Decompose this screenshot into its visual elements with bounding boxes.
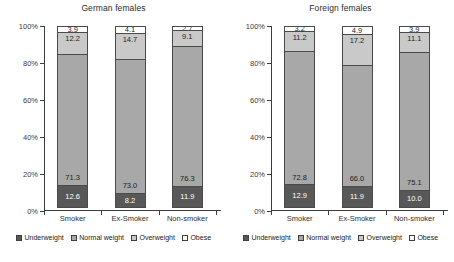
legend-swatch-icon xyxy=(131,235,137,241)
bar-segment: 12.6 xyxy=(57,185,88,208)
legend-swatch-icon xyxy=(243,235,249,241)
y-axis-tick-label: 80% xyxy=(231,59,265,68)
legend-item: Overweight xyxy=(131,234,175,241)
x-axis-labels: SmokerEx-SmokerNon-smoker xyxy=(271,214,448,228)
bar-segment: 17.2 xyxy=(342,34,373,66)
legend-item: Obese xyxy=(182,234,211,241)
bar-segment-value: 17.2 xyxy=(343,37,372,45)
chart-title: German females xyxy=(0,3,227,13)
y-axis-tick-label: 60% xyxy=(231,96,265,105)
y-axis-tick-label: 0% xyxy=(231,207,265,216)
legend-item: Underweight xyxy=(16,234,64,241)
legend-item: Normal weight xyxy=(71,234,124,241)
bar-segment-value: 66.0 xyxy=(343,175,372,183)
legend-label: Underweight xyxy=(24,234,63,241)
x-axis-category-label: Smoker xyxy=(287,214,313,223)
legend-item: Obese xyxy=(409,234,438,241)
legend: UnderweightNormal weightOverweightObese xyxy=(0,234,227,241)
bar-segment-value: 72.8 xyxy=(285,174,314,182)
bar-segment: 10.0 xyxy=(399,190,430,209)
stacked-bar: 3.911.175.110.0 xyxy=(399,26,430,211)
legend-label: Overweight xyxy=(140,234,175,241)
x-axis-category-label: Ex-Smoker xyxy=(111,214,148,223)
stacked-bar: 2.79.176.311.9 xyxy=(172,26,203,211)
stacked-bar-chart-figure: German females 0%20%40%60%80%100% 3.912.… xyxy=(0,0,454,262)
bar-segment-value: 75.1 xyxy=(400,179,429,187)
legend-item: Normal weight xyxy=(298,234,351,241)
bar-segment-value: 12.2 xyxy=(58,35,87,43)
bar-segment-value: 71.3 xyxy=(58,174,87,182)
bar-segment: 11.2 xyxy=(284,31,315,52)
bar-segment: 12.2 xyxy=(57,32,88,55)
bar-segment-value: 11.1 xyxy=(400,35,429,43)
bar-segment-value: 9.1 xyxy=(173,33,202,41)
y-axis-tick-label: 40% xyxy=(231,133,265,142)
bar-segment: 73.0 xyxy=(115,59,146,194)
y-axis-tick-label: 20% xyxy=(4,170,38,179)
y-axis-tick-label: 20% xyxy=(231,170,265,179)
x-axis-category-label: Non-smoker xyxy=(167,214,208,223)
y-axis-tick-label: 0% xyxy=(4,207,38,216)
bar-segment-value: 11.9 xyxy=(180,193,194,201)
bar-segment: 8.2 xyxy=(115,193,146,208)
y-axis-tick-label: 100% xyxy=(4,22,38,31)
legend-label: Obese xyxy=(417,234,438,241)
bar-group: 3.211.272.812.94.917.266.011.93.911.175.… xyxy=(271,26,443,211)
bar-segment: 12.9 xyxy=(284,184,315,208)
legend-item: Overweight xyxy=(358,234,402,241)
chart-panel-german-females: German females 0%20%40%60%80%100% 3.912.… xyxy=(0,0,227,262)
bar-segment-value: 8.2 xyxy=(125,197,135,205)
bar-segment: 14.7 xyxy=(115,33,146,60)
bar-segment: 75.1 xyxy=(399,52,430,191)
x-axis-labels: SmokerEx-SmokerNon-smoker xyxy=(44,214,221,228)
stacked-bar: 4.114.773.08.2 xyxy=(115,26,146,211)
y-axis-tick-label: 40% xyxy=(4,133,38,142)
bar-segment-value: 76.3 xyxy=(173,175,202,183)
bar-segment-value: 11.9 xyxy=(350,193,364,201)
bar-segment-value: 12.9 xyxy=(292,192,307,200)
legend-swatch-icon xyxy=(16,235,22,241)
plot-area: 0%20%40%60%80%100% 3.912.271.312.64.114.… xyxy=(44,26,216,211)
bar-segment: 11.9 xyxy=(172,186,203,208)
bar-segment: 11.9 xyxy=(342,186,373,208)
y-axis-tick-label: 100% xyxy=(231,22,265,31)
bar-segment-value: 14.7 xyxy=(116,36,145,44)
chart-panel-foreign-females: Foreign females 0%20%40%60%80%100% 3.211… xyxy=(227,0,454,262)
legend-item: Underweight xyxy=(243,234,291,241)
bar-segment-value: 73.0 xyxy=(116,182,145,190)
bar-segment-value: 10.0 xyxy=(407,195,422,203)
x-axis-category-label: Smoker xyxy=(60,214,86,223)
stacked-bar: 4.917.266.011.9 xyxy=(342,26,373,211)
bar-segment: 72.8 xyxy=(284,51,315,186)
legend-label: Normal weight xyxy=(306,234,351,241)
legend-swatch-icon xyxy=(409,235,415,241)
legend-label: Normal weight xyxy=(79,234,124,241)
bar-segment: 11.1 xyxy=(399,32,430,53)
y-axis-tick-label: 60% xyxy=(4,96,38,105)
legend-label: Obese xyxy=(190,234,211,241)
stacked-bar: 3.211.272.812.9 xyxy=(284,26,315,211)
legend-label: Underweight xyxy=(251,234,290,241)
bar-segment: 71.3 xyxy=(57,54,88,186)
legend-swatch-icon xyxy=(182,235,188,241)
plot-area: 0%20%40%60%80%100% 3.211.272.812.94.917.… xyxy=(271,26,443,211)
stacked-bar: 3.912.271.312.6 xyxy=(57,26,88,211)
bar-segment: 76.3 xyxy=(172,46,203,187)
legend-label: Overweight xyxy=(367,234,402,241)
bar-segment: 9.1 xyxy=(172,30,203,47)
bar-group: 3.912.271.312.64.114.773.08.22.79.176.31… xyxy=(44,26,216,211)
legend-swatch-icon xyxy=(358,235,364,241)
bar-segment-value: 11.2 xyxy=(285,34,314,42)
legend-swatch-icon xyxy=(71,235,77,241)
legend: UnderweightNormal weightOverweightObese xyxy=(227,234,454,241)
legend-swatch-icon xyxy=(298,235,304,241)
bar-segment: 66.0 xyxy=(342,65,373,187)
x-axis-category-label: Non-smoker xyxy=(394,214,435,223)
x-axis-category-label: Ex-Smoker xyxy=(338,214,375,223)
bar-segment-value: 12.6 xyxy=(65,193,80,201)
chart-title: Foreign females xyxy=(227,3,454,13)
y-axis-tick-label: 80% xyxy=(4,59,38,68)
